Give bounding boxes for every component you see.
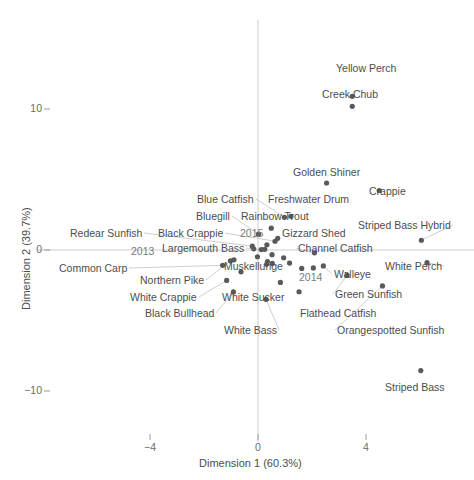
species-label: Striped Bass (385, 382, 445, 393)
data-point (324, 180, 329, 185)
year-data-point (264, 242, 269, 247)
species-label: White Sucker (222, 292, 284, 303)
species-label: Muskellunge (224, 261, 283, 272)
data-point (419, 238, 424, 243)
species-label: White Crappie (130, 292, 197, 303)
data-point (296, 289, 301, 294)
species-label: Black Bullhead (145, 308, 214, 319)
species-label: White Perch (385, 261, 442, 272)
species-label: Orangespotted Sunfish (337, 325, 444, 336)
y-tick-label: −10 (8, 384, 42, 396)
x-tick-label: 0 (248, 441, 268, 453)
species-label: White Bass (224, 325, 277, 336)
species-label: Largemouth Bass (162, 243, 244, 254)
data-point (272, 239, 277, 244)
x-axis-title: Dimension 1 (60.3%) (199, 457, 302, 469)
species-label: Gizzard Shed (282, 228, 346, 239)
x-tick-label: 4 (356, 441, 376, 453)
species-label: Green Sunfish (335, 289, 402, 300)
leader-line (129, 265, 223, 268)
species-label: Creek Chub (322, 89, 378, 100)
species-label: Black Crappie (158, 228, 223, 239)
species-label: Striped Bass Hybrid (358, 220, 451, 231)
species-label: Bluegill (196, 211, 230, 222)
species-label: Flathead Catfish (300, 308, 376, 319)
data-point (321, 263, 326, 268)
year-label: 2013 (131, 246, 154, 257)
data-point (350, 104, 355, 109)
y-tick-label: 10 (8, 102, 42, 114)
species-label: Blue Catfish (197, 194, 254, 205)
year-data-point (311, 265, 316, 270)
species-label: Northern Pike (140, 275, 204, 286)
data-point (255, 254, 260, 259)
y-axis-title: Dimension 2 (39.7%) (20, 207, 32, 310)
species-label: Walleye (334, 269, 371, 280)
species-label: Crappie (369, 186, 406, 197)
data-point (287, 261, 292, 266)
data-point (224, 278, 229, 283)
data-point (262, 247, 267, 252)
species-label: Channel Catfish (298, 243, 373, 254)
species-label: Yellow Perch (336, 63, 396, 74)
data-point (418, 368, 423, 373)
data-point (269, 226, 274, 231)
year-label: 2014 (299, 272, 322, 283)
scatter-plot: Yellow PerchCreek ChubGolden ShinerCrapp… (0, 0, 474, 480)
x-tick-label: −4 (140, 441, 160, 453)
species-label: Redear Sunfish (70, 228, 142, 239)
year-label: 2015 (240, 228, 263, 239)
data-point (251, 246, 256, 251)
plot-canvas (0, 0, 474, 480)
data-point (278, 280, 283, 285)
data-point (269, 252, 274, 257)
species-label: Freshwater Drum (268, 194, 349, 205)
species-label: Rainbow Trout (241, 211, 309, 222)
species-label: Common Carp (59, 263, 127, 274)
species-label: Golden Shiner (293, 167, 360, 178)
